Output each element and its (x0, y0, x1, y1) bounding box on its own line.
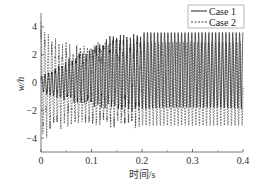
series-case-1 (41, 32, 243, 111)
y-axis-label: w/h (15, 77, 26, 91)
y-tick-label: −4 (26, 133, 37, 144)
x-tick-label: 0.4 (237, 155, 250, 166)
x-tick-label: 0 (39, 155, 44, 166)
legend-label-case-2: Case 2 (209, 17, 236, 28)
legend-label-case-1: Case 1 (209, 6, 236, 17)
y-tick-label: 4 (32, 21, 37, 32)
legend: Case 1 Case 2 (188, 5, 244, 28)
x-axis-label: 时间/s (129, 168, 156, 180)
x-ticks: 00.10.20.30.4 (39, 149, 250, 166)
case-1-line (41, 32, 243, 111)
x-tick-label: 0.1 (85, 155, 98, 166)
y-tick-label: −2 (26, 105, 37, 116)
line-chart: 00.10.20.30.4 420−2−4 时间/s w/h Case 1 Ca… (0, 0, 261, 187)
y-tick-label: 0 (32, 77, 37, 88)
x-tick-label: 0.2 (136, 155, 149, 166)
x-tick-label: 0.3 (186, 155, 199, 166)
y-tick-label: 2 (32, 49, 37, 60)
